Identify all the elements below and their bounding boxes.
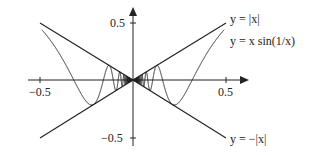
x-axis-arrow-icon bbox=[240, 76, 249, 84]
legend-negabs: y = −|x| bbox=[230, 133, 266, 145]
legend-abs: y = |x| bbox=[230, 13, 260, 25]
y-axis-arrow-icon bbox=[129, 7, 137, 16]
y-tick-label-neg: −0.5 bbox=[101, 132, 123, 144]
plot-area bbox=[0, 0, 313, 155]
y-tick-label-pos: 0.5 bbox=[110, 17, 125, 29]
x-tick-label-neg: −0.5 bbox=[29, 86, 51, 98]
x-tick-label-pos: 0.5 bbox=[218, 86, 233, 98]
legend-xsin: y = x sin(1/x) bbox=[230, 35, 295, 47]
